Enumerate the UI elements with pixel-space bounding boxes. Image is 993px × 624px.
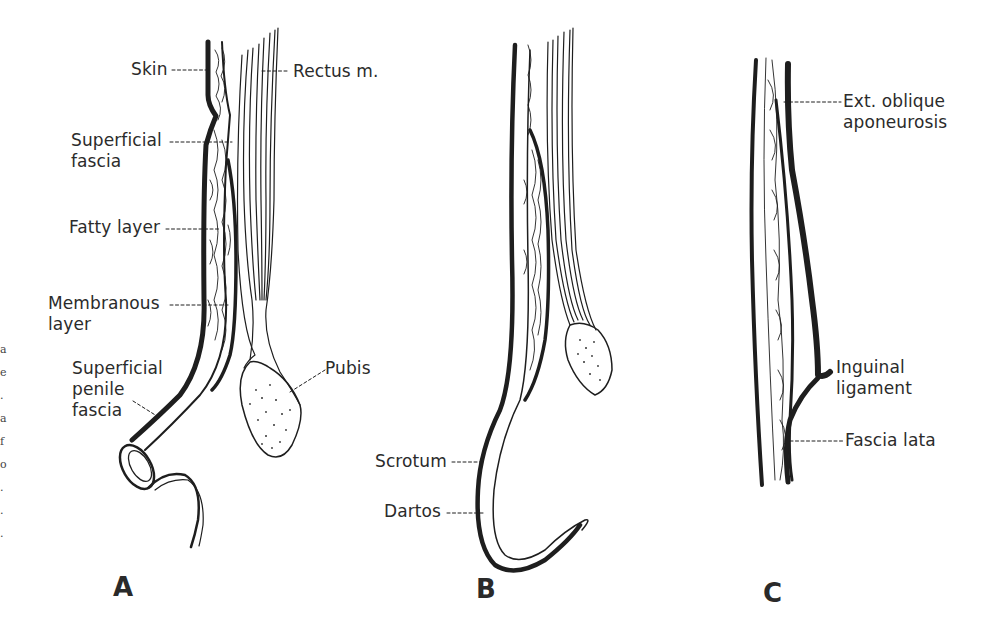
label-ext-oblique-aponeurosis: Ext. oblique aponeurosis [843, 91, 947, 133]
label-line: fascia [72, 400, 163, 421]
label-fascia-lata: Fascia lata [845, 430, 936, 451]
label-line: Ext. oblique [843, 91, 947, 112]
panel-a-drawing [113, 28, 325, 547]
cropped-text-fragment: a e . a f o . . . [0, 338, 8, 545]
anatomy-figure: a e . a f o . . . Skin Rectus m. Superfi… [0, 0, 993, 624]
panel-c-drawing [752, 58, 844, 485]
label-line: aponeurosis [843, 112, 947, 133]
fragment-char: a [0, 338, 8, 361]
label-superficial-penile-fascia: Superficial penile fascia [72, 358, 163, 421]
fragment-char: f [0, 430, 8, 453]
fragment-char: e [0, 361, 8, 384]
label-skin: Skin [131, 59, 168, 80]
label-superficial-fascia: Superficial fascia [71, 130, 162, 172]
label-scrotum: Scrotum [375, 451, 447, 472]
label-pubis: Pubis [325, 358, 371, 379]
label-line: fascia [71, 151, 162, 172]
fragment-char: . [0, 522, 8, 545]
panel-letter-b: B [476, 574, 496, 604]
fragment-char: o [0, 453, 8, 476]
panel-letter-a: A [113, 572, 133, 602]
label-fatty-layer: Fatty layer [69, 217, 160, 238]
label-line: penile [72, 379, 163, 400]
label-line: layer [48, 314, 160, 335]
label-rectus-muscle: Rectus m. [293, 61, 378, 82]
label-line: Inguinal [836, 357, 912, 378]
fragment-char: a [0, 407, 8, 430]
label-line: ligament [836, 378, 912, 399]
label-membranous-layer: Membranous layer [48, 293, 160, 335]
label-line: Membranous [48, 293, 160, 314]
label-inguinal-ligament: Inguinal ligament [836, 357, 912, 399]
label-line: Superficial [71, 130, 162, 151]
panel-letter-c: C [763, 578, 782, 608]
fragment-char: . [0, 499, 8, 522]
fragment-char: . [0, 384, 8, 407]
label-dartos: Dartos [384, 501, 441, 522]
label-line: Superficial [72, 358, 163, 379]
panel-b-drawing [447, 28, 612, 570]
fragment-char: . [0, 476, 8, 499]
